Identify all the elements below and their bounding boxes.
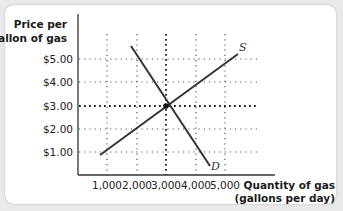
x-axis-label-line1: Quantity of gas	[244, 179, 335, 191]
demand-curve	[131, 46, 210, 166]
y-tick-1: $1.00	[43, 146, 73, 158]
x-tick-1: 1,000	[92, 179, 122, 191]
y-tick-2: $2.00	[43, 123, 73, 135]
y-axis-label-line1: Price per	[14, 18, 68, 30]
y-tick-5: $5.00	[43, 53, 73, 65]
x-axis-label-line2: (gallons per day)	[234, 192, 335, 204]
y-tick-4: $4.00	[43, 76, 73, 88]
supply-demand-chart: Price per gallon of gas $1.00 $2.00 $3.0…	[0, 0, 343, 211]
x-tick-2: 2,000	[122, 179, 152, 191]
y-axis-label-line2: gallon of gas	[0, 32, 67, 44]
demand-curve-label: D	[210, 160, 220, 173]
y-tick-3: $3.00	[43, 100, 73, 112]
x-tick-4: 4,000	[181, 179, 211, 191]
equilibrium-point	[163, 103, 169, 109]
x-tick-3: 3,000	[151, 179, 181, 191]
x-tick-5: 5,000	[210, 179, 240, 191]
supply-curve-label: S	[239, 41, 247, 54]
